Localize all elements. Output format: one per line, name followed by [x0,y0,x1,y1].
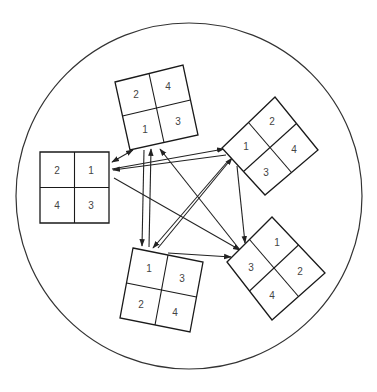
edge-left-to-bottomright [114,178,240,250]
cell-bottom-tl: 1 [146,263,152,274]
cell-bottomright-right: 2 [297,266,303,277]
cell-right-bottom: 3 [263,167,269,178]
cell-left-bl: 4 [54,200,60,211]
edge-bottomright-to-top [160,149,240,250]
cell-top-br: 3 [175,116,181,127]
cell-top-tr: 4 [165,81,171,92]
diagram-canvas: 2 4 1 3 2 1 4 3 1 2 3 4 3 1 4 2 1 [0,0,377,392]
edge-bottom-to-right [158,158,232,248]
cell-bottom-bl: 2 [138,299,144,310]
edge-right-to-bottomright [237,166,245,243]
cell-bottom-tr: 3 [179,273,185,284]
node-right: 1 2 3 4 [222,97,318,195]
node-left: 2 1 4 3 [40,152,109,223]
node-top: 2 4 1 3 [115,65,198,150]
cell-left-tl: 2 [54,165,60,176]
cell-bottomright-left: 3 [248,262,254,273]
edge-right-to-left [113,155,226,170]
cell-bottomright-top: 1 [274,237,280,248]
edge-top-to-bottom [142,150,144,246]
cell-left-br: 3 [88,200,94,211]
edge-top-left [112,150,133,162]
cell-right-top: 2 [269,116,275,127]
node-bottom: 1 3 2 4 [120,248,203,332]
edge-right-to-bottom [153,161,228,248]
cell-bottom-br: 4 [172,307,178,318]
cell-top-tl: 2 [133,89,139,100]
cell-bottomright-bottom: 4 [269,290,275,301]
cell-left-tr: 1 [88,165,94,176]
node-bottom-right: 3 1 4 2 [227,217,325,320]
cell-top-bl: 1 [142,124,148,135]
edges [112,149,245,257]
cell-right-right: 4 [291,144,297,155]
cell-right-left: 1 [243,141,249,152]
